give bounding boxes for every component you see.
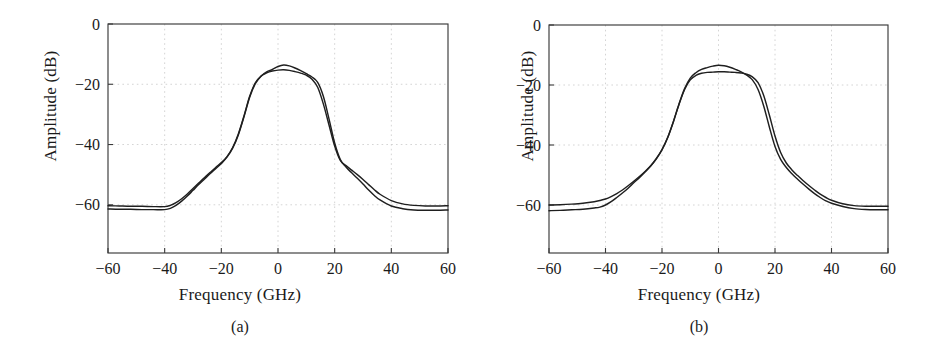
y-axis-label-b: Amplitude (dB)	[518, 11, 538, 201]
svg-text:−60: −60	[75, 196, 100, 213]
x-axis-label-b: Frequency (GHz)	[489, 285, 909, 305]
svg-text:−40: −40	[75, 136, 100, 153]
svg-text:−20: −20	[649, 260, 674, 277]
y-axis-label-a: Amplitude (dB)	[41, 11, 61, 201]
svg-text:20: 20	[767, 260, 783, 277]
svg-text:−40: −40	[593, 260, 618, 277]
panel-a: −60−40−2002040600−20−40−60 Amplitude (dB…	[0, 0, 469, 358]
svg-text:0: 0	[715, 260, 723, 277]
svg-text:−40: −40	[152, 260, 177, 277]
svg-text:−60: −60	[95, 260, 120, 277]
panel-caption-b: (b)	[489, 318, 909, 336]
svg-text:−60: −60	[536, 260, 561, 277]
svg-text:40: 40	[383, 260, 399, 277]
svg-text:60: 60	[440, 260, 456, 277]
svg-text:20: 20	[327, 260, 343, 277]
plot-b: −60−40−2002040600−20−40−60	[469, 0, 938, 300]
plot-a: −60−40−2002040600−20−40−60	[0, 0, 469, 300]
svg-text:−20: −20	[209, 260, 234, 277]
svg-text:0: 0	[274, 260, 282, 277]
panel-b: −60−40−2002040600−20−40−60 Amplitude (dB…	[469, 0, 938, 358]
svg-text:40: 40	[824, 260, 840, 277]
svg-text:60: 60	[880, 260, 896, 277]
figure-root: −60−40−2002040600−20−40−60 Amplitude (dB…	[0, 0, 938, 358]
panel-caption-a: (a)	[30, 318, 450, 336]
svg-text:−20: −20	[75, 76, 100, 93]
x-axis-label-a: Frequency (GHz)	[30, 285, 450, 305]
svg-text:0: 0	[92, 16, 100, 33]
